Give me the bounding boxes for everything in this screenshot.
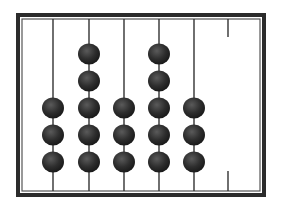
bead (148, 98, 170, 119)
bead (148, 44, 170, 65)
bead (148, 125, 170, 146)
bead (148, 71, 170, 92)
bead (113, 125, 135, 146)
bead (183, 98, 205, 119)
bead (78, 152, 100, 173)
bead (78, 44, 100, 65)
bead (78, 98, 100, 119)
bead (113, 98, 135, 119)
bead (78, 71, 100, 92)
abacus-diagram (0, 0, 283, 213)
bead (148, 152, 170, 173)
bead (183, 152, 205, 173)
bead (42, 125, 64, 146)
bead (42, 98, 64, 119)
bead (78, 125, 100, 146)
bead (183, 125, 205, 146)
bead (113, 152, 135, 173)
bead (42, 152, 64, 173)
